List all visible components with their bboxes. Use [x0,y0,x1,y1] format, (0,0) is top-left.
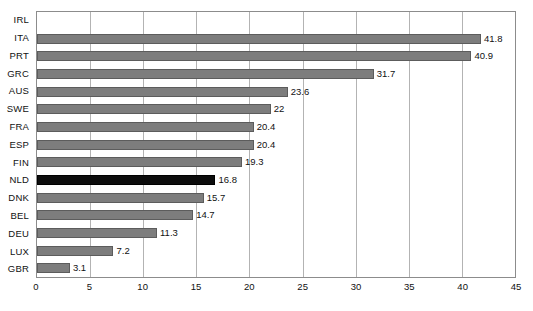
bar-fin[interactable] [37,157,242,167]
bar-row [37,12,515,30]
x-tick-label-35: 35 [404,282,415,292]
category-label-irl: IRL [0,11,33,29]
category-label-deu: DEU [0,225,33,243]
category-label-fin: FIN [0,153,33,171]
x-tick-label-40: 40 [457,282,468,292]
bar-row: 3.1 [37,259,515,277]
bar-value-label-aus: 23.6 [291,87,310,97]
bar-row: 11.3 [37,224,515,242]
bar-row: 7.2 [37,242,515,260]
bar-ita[interactable] [37,34,481,44]
bar-nld[interactable] [37,175,215,185]
x-tick-label-25: 25 [297,282,308,292]
bar-value-label-fra: 20.4 [257,122,276,132]
bar-fra[interactable] [37,122,254,132]
x-tick-label-45: 45 [511,282,522,292]
category-label-lux: LUX [0,242,33,260]
bar-value-label-esp: 20.4 [257,140,276,150]
bar-dnk[interactable] [37,193,204,203]
bar-prt[interactable] [37,51,471,61]
category-label-grc: GRC [0,64,33,82]
x-tick-label-10: 10 [137,282,148,292]
bar-row: 23.6 [37,83,515,101]
bar-chart: IRLITAPRTGRCAUSSWEFRAESPFINNLDDNKBELDEUL… [0,0,533,311]
bar-deu[interactable] [37,228,157,238]
bar-row: 41.8 [37,30,515,48]
bar-row: 15.7 [37,189,515,207]
category-label-esp: ESP [0,136,33,154]
bar-row: 16.8 [37,171,515,189]
bar-row: 19.3 [37,153,515,171]
bar-row: 40.9 [37,47,515,65]
bar-value-label-fin: 19.3 [245,157,264,167]
bar-row: 22 [37,100,515,118]
category-axis: IRLITAPRTGRCAUSSWEFRAESPFINNLDDNKBELDEUL… [0,11,33,278]
x-tick-label-30: 30 [351,282,362,292]
bar-value-label-grc: 31.7 [377,69,396,79]
category-label-aus: AUS [0,82,33,100]
category-label-nld: NLD [0,171,33,189]
category-label-gbr: GBR [0,260,33,278]
bars-layer: 41.840.931.723.62220.420.419.316.815.714… [37,12,515,277]
category-label-dnk: DNK [0,189,33,207]
bar-value-label-nld: 16.8 [218,175,237,185]
category-label-prt: PRT [0,47,33,65]
bar-value-label-deu: 11.3 [160,228,178,238]
bar-swe[interactable] [37,104,271,114]
bar-value-label-swe: 22 [274,104,285,114]
bar-value-label-lux: 7.2 [116,246,129,256]
bar-row: 20.4 [37,136,515,154]
bar-row: 31.7 [37,65,515,83]
bar-value-label-prt: 40.9 [474,51,493,61]
value-axis: 051015202530354045 [36,282,516,298]
bar-value-label-gbr: 3.1 [73,263,86,273]
category-label-ita: ITA [0,29,33,47]
bar-aus[interactable] [37,87,288,97]
category-label-bel: BEL [0,207,33,225]
category-label-fra: FRA [0,118,33,136]
bar-row: 20.4 [37,118,515,136]
bar-lux[interactable] [37,246,113,256]
bar-value-label-ita: 41.8 [484,34,503,44]
bar-gbr[interactable] [37,263,70,273]
plot-area: 41.840.931.723.62220.420.419.316.815.714… [36,11,516,278]
bar-esp[interactable] [37,140,254,150]
x-tick-label-15: 15 [191,282,202,292]
x-tick-label-0: 0 [33,282,38,292]
bar-value-label-bel: 14.7 [196,210,215,220]
x-tick-label-5: 5 [87,282,92,292]
category-label-swe: SWE [0,100,33,118]
bar-bel[interactable] [37,210,193,220]
x-tick-label-20: 20 [244,282,255,292]
bar-value-label-dnk: 15.7 [207,193,226,203]
bar-row: 14.7 [37,206,515,224]
bar-grc[interactable] [37,69,374,79]
